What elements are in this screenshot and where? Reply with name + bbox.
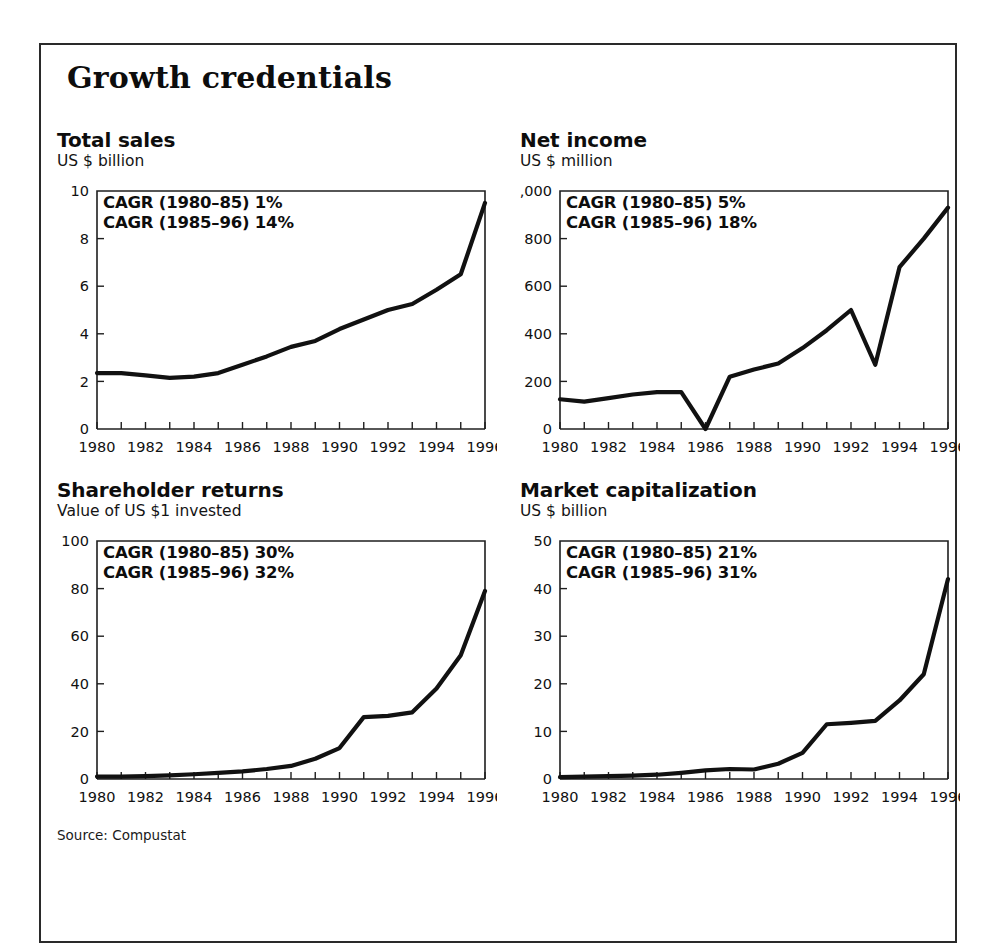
svg-text:20: 20 bbox=[71, 724, 89, 740]
cagr-line-2: CAGR (1985–96) 31% bbox=[566, 563, 757, 582]
svg-text:60: 60 bbox=[71, 629, 89, 645]
svg-text:600: 600 bbox=[524, 279, 552, 295]
svg-text:1990: 1990 bbox=[321, 439, 358, 455]
svg-text:1994: 1994 bbox=[418, 439, 455, 455]
svg-text:1992: 1992 bbox=[370, 789, 407, 805]
svg-text:8: 8 bbox=[80, 231, 89, 247]
panel-subtitle: US $ million bbox=[520, 152, 960, 171]
svg-text:1988: 1988 bbox=[273, 439, 310, 455]
svg-text:1994: 1994 bbox=[881, 789, 918, 805]
svg-text:4: 4 bbox=[80, 326, 89, 342]
panel-net-income: Net income US $ million 02004006008001,0… bbox=[520, 130, 960, 464]
cagr-annotation: CAGR (1980–85) 5% CAGR (1985–96) 18% bbox=[566, 193, 757, 232]
svg-text:1990: 1990 bbox=[784, 789, 821, 805]
svg-text:1992: 1992 bbox=[370, 439, 407, 455]
chart-net-income: 02004006008001,0001980198219841986198819… bbox=[520, 179, 960, 464]
svg-text:1994: 1994 bbox=[418, 789, 455, 805]
svg-text:1980: 1980 bbox=[79, 789, 116, 805]
svg-text:30: 30 bbox=[534, 629, 552, 645]
svg-text:1986: 1986 bbox=[224, 439, 261, 455]
panel-subtitle: Value of US $1 invested bbox=[57, 502, 497, 521]
svg-text:1982: 1982 bbox=[590, 439, 627, 455]
svg-text:2: 2 bbox=[80, 374, 89, 390]
svg-text:1992: 1992 bbox=[833, 789, 870, 805]
panel-subtitle: US $ billion bbox=[520, 502, 960, 521]
panel-title: Net income bbox=[520, 130, 960, 151]
cagr-annotation: CAGR (1980–85) 1% CAGR (1985–96) 14% bbox=[103, 193, 294, 232]
svg-text:0: 0 bbox=[80, 422, 89, 438]
svg-text:1988: 1988 bbox=[736, 789, 773, 805]
page-title: Growth credentials bbox=[67, 60, 392, 95]
svg-text:1980: 1980 bbox=[79, 439, 116, 455]
svg-text:1980: 1980 bbox=[542, 789, 579, 805]
svg-text:20: 20 bbox=[534, 676, 552, 692]
svg-text:1988: 1988 bbox=[736, 439, 773, 455]
svg-text:1996: 1996 bbox=[930, 789, 960, 805]
svg-text:1986: 1986 bbox=[687, 439, 724, 455]
svg-text:200: 200 bbox=[524, 374, 552, 390]
cagr-annotation: CAGR (1980–85) 21% CAGR (1985–96) 31% bbox=[566, 543, 757, 582]
svg-text:1994: 1994 bbox=[881, 439, 918, 455]
svg-text:1982: 1982 bbox=[127, 439, 164, 455]
svg-text:1988: 1988 bbox=[273, 789, 310, 805]
svg-text:400: 400 bbox=[524, 326, 552, 342]
panel-market-capitalization: Market capitalization US $ billion 01020… bbox=[520, 480, 960, 814]
cagr-annotation: CAGR (1980–85) 30% CAGR (1985–96) 32% bbox=[103, 543, 294, 582]
svg-text:1984: 1984 bbox=[176, 439, 213, 455]
svg-text:1984: 1984 bbox=[176, 789, 213, 805]
svg-text:1980: 1980 bbox=[542, 439, 579, 455]
cagr-line-2: CAGR (1985–96) 32% bbox=[103, 563, 294, 582]
svg-text:10: 10 bbox=[71, 184, 89, 200]
svg-text:1996: 1996 bbox=[467, 439, 497, 455]
svg-text:1984: 1984 bbox=[639, 789, 676, 805]
svg-text:1986: 1986 bbox=[224, 789, 261, 805]
chart-shareholder-returns: 0204060801001980198219841986198819901992… bbox=[57, 529, 497, 814]
svg-text:100: 100 bbox=[61, 534, 89, 550]
svg-text:0: 0 bbox=[80, 772, 89, 788]
svg-text:40: 40 bbox=[71, 676, 89, 692]
cagr-line-1: CAGR (1980–85) 5% bbox=[566, 193, 757, 212]
svg-text:1982: 1982 bbox=[127, 789, 164, 805]
svg-text:0: 0 bbox=[543, 772, 552, 788]
panel-title: Shareholder returns bbox=[57, 480, 497, 501]
cagr-line-1: CAGR (1980–85) 1% bbox=[103, 193, 294, 212]
chart-market-capitalization: 0102030405019801982198419861988199019921… bbox=[520, 529, 960, 814]
svg-text:40: 40 bbox=[534, 581, 552, 597]
svg-text:1,000: 1,000 bbox=[520, 184, 552, 200]
panel-subtitle: US $ billion bbox=[57, 152, 497, 171]
svg-text:1990: 1990 bbox=[784, 439, 821, 455]
cagr-line-2: CAGR (1985–96) 14% bbox=[103, 213, 294, 232]
svg-text:800: 800 bbox=[524, 231, 552, 247]
svg-text:1984: 1984 bbox=[639, 439, 676, 455]
svg-text:1986: 1986 bbox=[687, 789, 724, 805]
svg-text:1996: 1996 bbox=[930, 439, 960, 455]
panel-title: Total sales bbox=[57, 130, 497, 151]
svg-text:80: 80 bbox=[71, 581, 89, 597]
svg-text:1990: 1990 bbox=[321, 789, 358, 805]
chart-total-sales: 0246810198019821984198619881990199219941… bbox=[57, 179, 497, 464]
cagr-line-1: CAGR (1980–85) 30% bbox=[103, 543, 294, 562]
svg-text:1996: 1996 bbox=[467, 789, 497, 805]
cagr-line-2: CAGR (1985–96) 18% bbox=[566, 213, 757, 232]
svg-text:6: 6 bbox=[80, 279, 89, 295]
panel-shareholder-returns: Shareholder returns Value of US $1 inves… bbox=[57, 480, 497, 814]
svg-text:50: 50 bbox=[534, 534, 552, 550]
svg-text:10: 10 bbox=[534, 724, 552, 740]
cagr-line-1: CAGR (1980–85) 21% bbox=[566, 543, 757, 562]
svg-text:0: 0 bbox=[543, 422, 552, 438]
panel-title: Market capitalization bbox=[520, 480, 960, 501]
panel-total-sales: Total sales US $ billion 024681019801982… bbox=[57, 130, 497, 464]
source-note: Source: Compustat bbox=[57, 827, 186, 843]
svg-text:1992: 1992 bbox=[833, 439, 870, 455]
svg-text:1982: 1982 bbox=[590, 789, 627, 805]
